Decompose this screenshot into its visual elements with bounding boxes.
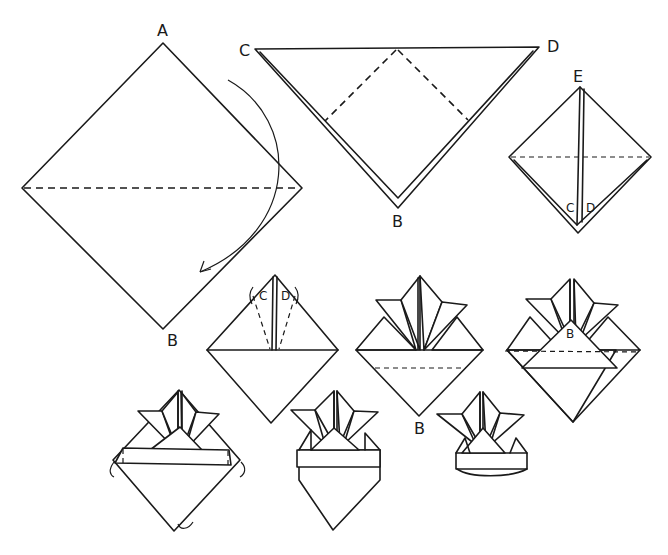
flap-label-c: C bbox=[566, 201, 574, 215]
fold-down-arrow-icon bbox=[200, 80, 279, 272]
fold-behind-arrow-icon bbox=[240, 462, 245, 477]
corner-label-b: B bbox=[414, 419, 425, 438]
corner-label-e: E bbox=[573, 67, 583, 86]
corner-label-d: D bbox=[547, 37, 559, 56]
step-8-helmet bbox=[291, 391, 380, 530]
corner-label-b: B bbox=[167, 331, 178, 350]
fold-behind-arrow-icon bbox=[110, 462, 114, 477]
flap-label-d: D bbox=[586, 201, 595, 215]
corner-label-a: A bbox=[157, 21, 168, 40]
step-7-helmet bbox=[110, 390, 244, 531]
step-2-triangle: C D B bbox=[239, 37, 559, 231]
step-4-diamond: C D bbox=[207, 275, 338, 423]
step-6-helmet: B bbox=[505, 279, 640, 422]
step-3-diamond: E C D bbox=[509, 67, 651, 233]
corner-label-b: B bbox=[392, 212, 403, 231]
flap-label-d: D bbox=[281, 289, 290, 303]
flap-label-c: C bbox=[259, 289, 267, 303]
step-9-finished-helmet bbox=[437, 392, 527, 476]
arrowhead-icon bbox=[200, 261, 211, 272]
origami-helmet-diagram: A B C D B E C D C D bbox=[0, 0, 668, 555]
flap-label-b: B bbox=[566, 327, 574, 341]
corner-label-c: C bbox=[239, 41, 250, 60]
